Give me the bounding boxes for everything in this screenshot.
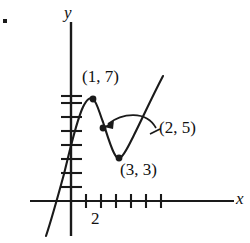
x-axis-label: x xyxy=(236,190,244,207)
coordinate-plot xyxy=(0,0,250,243)
point-marker-2-5 xyxy=(100,125,107,132)
cubic-curve xyxy=(46,76,163,236)
graph-figure: (1, 7) (2, 5) (3, 3) y x 2 xyxy=(0,0,250,243)
annotation-label-3-3: (3, 3) xyxy=(120,161,157,178)
annotation-label-2-5: (2, 5) xyxy=(159,119,196,136)
y-axis-label: y xyxy=(64,4,72,21)
point-marker-1-7 xyxy=(90,96,97,103)
x-tick-label-2: 2 xyxy=(91,210,100,227)
annotation-label-1-7: (1, 7) xyxy=(82,68,119,85)
leader-arrow-2-5 xyxy=(108,115,156,128)
